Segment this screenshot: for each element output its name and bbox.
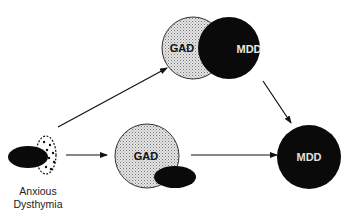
mid-gad-node: GAD — [115, 124, 196, 188]
venn-gad-mdd: GAD MDD — [162, 17, 262, 79]
final-mdd-node: MDD — [277, 125, 341, 189]
venn-gad-label: GAD — [170, 42, 195, 54]
diagram-canvas: Anxious Dysthymia GAD MDD GAD MDD — [0, 0, 351, 217]
mid-gad-label: GAD — [134, 150, 159, 162]
arrow-to-venn — [58, 68, 167, 127]
anxious-label: Anxious — [19, 185, 56, 197]
mid-black-ellipse — [154, 166, 196, 188]
venn-mdd-label: MDD — [236, 43, 261, 55]
anxious-dysthymia-node: Anxious Dysthymia — [8, 136, 63, 210]
final-mdd-label: MDD — [296, 151, 321, 163]
black-ellipse — [8, 146, 48, 168]
arrow-venn-to-mdd — [263, 81, 291, 123]
dysthymia-label: Dysthymia — [13, 198, 62, 210]
